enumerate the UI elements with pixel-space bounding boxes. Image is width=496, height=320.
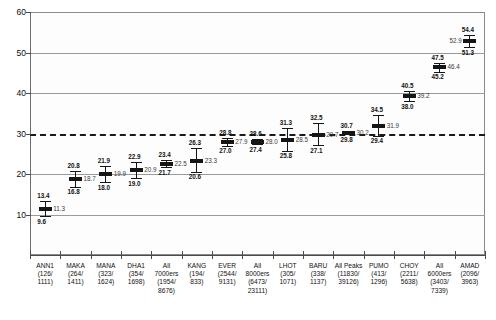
mean-marker xyxy=(130,168,143,172)
value-label-mean: 31.9 xyxy=(387,122,399,129)
y-tick-mark-30 xyxy=(26,134,31,135)
mean-marker xyxy=(190,159,203,163)
value-label-upper: 32.5 xyxy=(310,114,322,121)
x-label-line: AMAD xyxy=(451,262,489,270)
value-label-lower: 19.0 xyxy=(128,180,140,187)
mean-marker xyxy=(433,65,446,69)
whisker-cap-upper xyxy=(373,115,384,116)
mean-marker xyxy=(312,133,325,137)
value-label-mean: 27.9 xyxy=(235,138,247,145)
value-label-mean: 20.9 xyxy=(144,166,156,173)
value-label-mean: 19.9 xyxy=(114,170,126,177)
mean-marker xyxy=(281,138,294,142)
value-label-upper: 21.9 xyxy=(98,157,110,164)
x-tick-mark-3 xyxy=(121,251,122,259)
mean-marker xyxy=(403,94,416,98)
x-tick-mark-0 xyxy=(30,251,31,259)
value-label-upper: 28.8 xyxy=(219,129,231,136)
value-label-upper: 26.3 xyxy=(189,139,201,146)
x-tick-mark-4 xyxy=(151,251,152,259)
value-label-mean: 23.3 xyxy=(205,157,217,164)
mean-marker xyxy=(463,39,476,43)
value-label-lower: 27.1 xyxy=(310,147,322,154)
value-label-mean: 28.0 xyxy=(266,138,278,145)
y-tick-mark-20 xyxy=(26,174,31,175)
value-label-upper: 28.6 xyxy=(250,130,262,137)
value-label-upper: 54.4 xyxy=(462,26,474,33)
value-label-lower: 29.8 xyxy=(341,136,353,143)
whisker-cap-upper xyxy=(464,35,475,36)
value-label-upper: 34.5 xyxy=(371,106,383,113)
value-label-lower: 9.6 xyxy=(37,218,46,225)
x-label-line: 7339) xyxy=(420,287,458,295)
value-label-mean: 52.9 xyxy=(450,37,462,44)
mean-marker xyxy=(39,207,52,211)
mean-marker xyxy=(372,124,385,128)
whisker-cap-upper xyxy=(282,128,293,129)
y-tick-mark-60 xyxy=(26,12,31,13)
whisker-cap-upper xyxy=(404,91,415,92)
value-label-upper: 30.7 xyxy=(341,122,353,129)
y-tick-mark-50 xyxy=(26,53,31,54)
value-label-lower: 45.2 xyxy=(432,73,444,80)
gridline-50 xyxy=(30,53,485,54)
value-label-mean: 11.3 xyxy=(53,205,65,212)
x-label-line: 8676) xyxy=(147,287,185,295)
value-label-upper: 40.5 xyxy=(401,82,413,89)
x-tick-mark-11 xyxy=(364,251,365,259)
x-label-line: 3963) xyxy=(451,278,489,286)
value-label-mean: 18.7 xyxy=(84,175,96,182)
value-label-upper: 20.8 xyxy=(68,162,80,169)
x-tick-mark-14 xyxy=(455,251,456,259)
x-label-line: 23111) xyxy=(238,287,276,295)
mean-marker xyxy=(160,162,173,166)
x-tick-mark-6 xyxy=(212,251,213,259)
chart-container: 102030405060 13.49.611.320.816.818.721.9… xyxy=(0,0,496,320)
value-label-mean: 46.4 xyxy=(448,63,460,70)
value-label-mean: 30.2 xyxy=(357,129,369,136)
gridline-10 xyxy=(30,215,485,216)
x-label-line: (2096/ xyxy=(451,270,489,278)
whisker-cap-upper xyxy=(40,201,51,202)
mean-marker xyxy=(251,140,264,144)
whisker-cap-upper xyxy=(434,63,445,64)
value-label-lower: 51.3 xyxy=(462,49,474,56)
value-label-lower: 21.7 xyxy=(159,169,171,176)
gridline-20 xyxy=(30,174,485,175)
x-tick-mark-5 xyxy=(182,251,183,259)
x-tick-mark-9 xyxy=(303,251,304,259)
value-label-mean: 39.2 xyxy=(417,92,429,99)
mean-marker xyxy=(99,172,112,176)
value-label-mean: 22.5 xyxy=(175,160,187,167)
whisker-cap-upper xyxy=(313,123,324,124)
mean-marker xyxy=(342,131,355,135)
value-label-upper: 13.4 xyxy=(37,192,49,199)
whisker-cap-upper xyxy=(131,162,142,163)
value-label-lower: 38.0 xyxy=(401,103,413,110)
y-tick-mark-10 xyxy=(26,215,31,216)
value-label-lower: 20.6 xyxy=(189,173,201,180)
value-label-lower: 27.4 xyxy=(250,146,262,153)
x-tick-mark-15 xyxy=(485,251,486,259)
value-label-lower: 29.4 xyxy=(371,137,383,144)
value-label-lower: 25.8 xyxy=(280,152,292,159)
mean-marker xyxy=(221,140,234,144)
x-tick-mark-10 xyxy=(333,251,334,259)
x-tick-mark-12 xyxy=(394,251,395,259)
value-label-lower: 18.0 xyxy=(98,184,110,191)
value-label-upper: 22.9 xyxy=(128,153,140,160)
x-tick-mark-8 xyxy=(273,251,274,259)
x-tick-mark-13 xyxy=(424,251,425,259)
value-label-upper: 31.3 xyxy=(280,119,292,126)
y-tick-mark-40 xyxy=(26,93,31,94)
whisker-cap-upper xyxy=(70,171,81,172)
value-label-lower: 16.8 xyxy=(68,188,80,195)
whisker-cap-upper xyxy=(100,166,111,167)
x-tick-mark-2 xyxy=(91,251,92,259)
value-label-upper: 23.4 xyxy=(159,151,171,158)
value-label-upper: 47.5 xyxy=(432,54,444,61)
value-label-mean: 29.7 xyxy=(326,131,338,138)
mean-marker xyxy=(69,177,82,181)
x-tick-mark-7 xyxy=(242,251,243,259)
x-axis-line xyxy=(30,255,485,256)
